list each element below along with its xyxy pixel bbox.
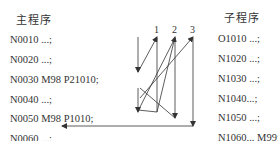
diag-line-2 (138, 38, 175, 111)
cross-return-line (140, 88, 175, 118)
flow-arrow-call-2 (157, 37, 175, 112)
call-flow-arrows (0, 0, 278, 141)
flow-arrow-call-3 (140, 37, 193, 98)
return-line-1 (138, 110, 157, 112)
flow-arrow-call-1 (138, 37, 157, 72)
